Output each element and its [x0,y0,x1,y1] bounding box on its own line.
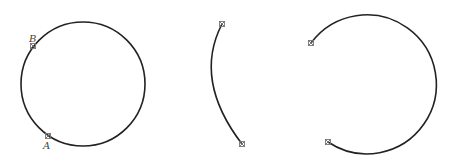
major-arc [311,15,436,154]
full-circle-figure: B A [21,22,145,151]
minor-arc [211,24,242,144]
minor-arc-figure [211,22,244,147]
arc-end-marker [240,142,245,147]
major-arc-figure [309,15,437,154]
point-b-label: B [28,33,36,44]
arc-start-marker [309,41,314,46]
point-a-label: A [42,140,50,151]
diagram-canvas: B A [0,0,452,167]
arc-end-marker [326,140,331,145]
full-circle [21,22,145,146]
